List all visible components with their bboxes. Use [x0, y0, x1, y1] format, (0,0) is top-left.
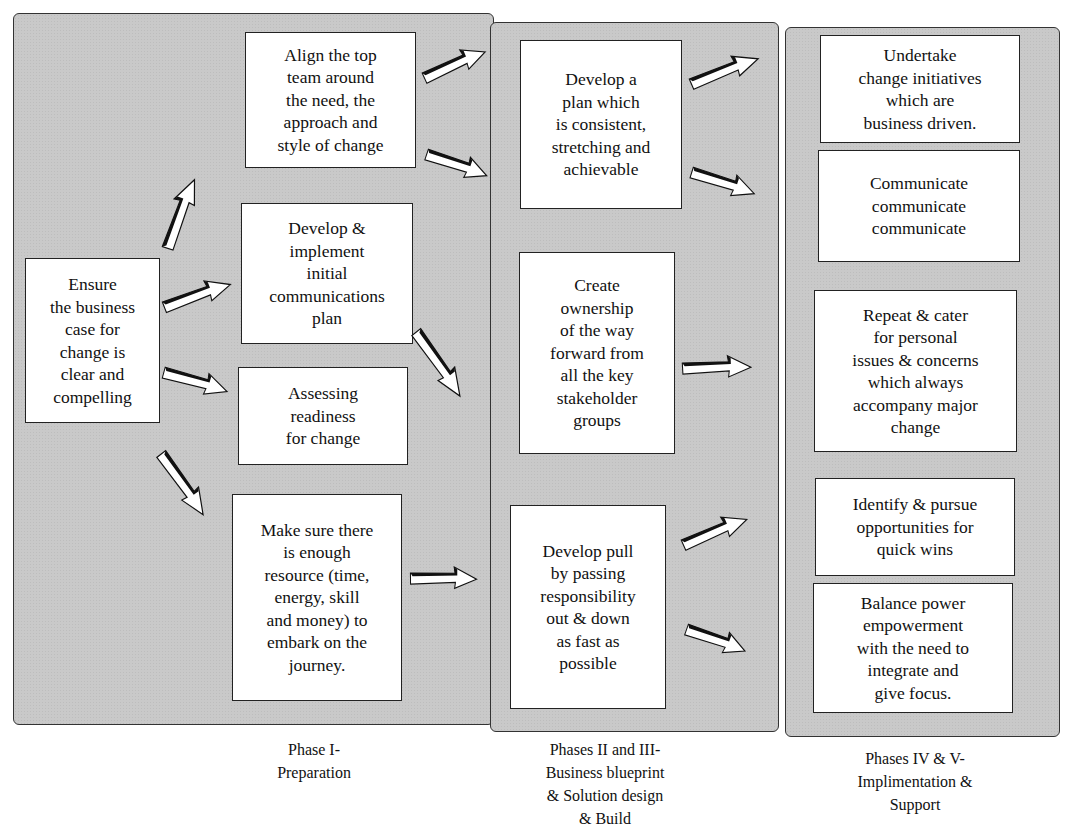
box-align-top-team: Align the top team around the need, the … [245, 32, 416, 168]
box-communications-plan: Develop & implement initial communicatio… [241, 203, 413, 344]
box-text: Undertake change initiatives which are b… [859, 44, 982, 134]
caption-phase-4-5: Phases IV & V- Implimentation & Support [815, 747, 1015, 816]
caption-phase-2-3: Phases II and III- Business blueprint & … [500, 738, 710, 830]
box-text: Create ownership of the way forward from… [550, 274, 644, 432]
box-text: Develop & implement initial communicatio… [269, 217, 385, 330]
caption-phase-1: Phase I- Preparation [224, 738, 404, 784]
box-text: Develop a plan which is consistent, stre… [552, 68, 651, 181]
box-develop-pull: Develop pull by passing responsibility o… [510, 505, 666, 709]
box-balance-power: Balance power empowerment with the need … [813, 583, 1013, 713]
box-text: Repeat & cater for personal issues & con… [852, 304, 978, 439]
box-text: Make sure there is enough resource (time… [261, 519, 374, 677]
box-business-case: Ensure the business case for change is c… [25, 258, 160, 423]
box-text: Develop pull by passing responsibility o… [540, 540, 635, 675]
box-assessing-readiness: Assessing readiness for change [238, 367, 408, 465]
box-text: Identify & pursue opportunities for quic… [853, 493, 977, 561]
box-text: Ensure the business case for change is c… [50, 273, 135, 408]
box-communicate: Communicate communicate communicate [818, 150, 1020, 262]
box-text: Assessing readiness for change [286, 382, 360, 450]
box-enough-resource: Make sure there is enough resource (time… [232, 494, 402, 701]
box-text: Align the top team around the need, the … [278, 44, 384, 157]
box-quick-wins: Identify & pursue opportunities for quic… [815, 478, 1015, 576]
box-develop-plan: Develop a plan which is consistent, stre… [520, 40, 682, 209]
box-undertake-initiatives: Undertake change initiatives which are b… [820, 35, 1020, 143]
box-text: Balance power empowerment with the need … [857, 592, 969, 705]
box-text: Communicate communicate communicate [870, 172, 968, 240]
box-repeat-cater: Repeat & cater for personal issues & con… [814, 290, 1017, 452]
box-create-ownership: Create ownership of the way forward from… [519, 252, 675, 454]
